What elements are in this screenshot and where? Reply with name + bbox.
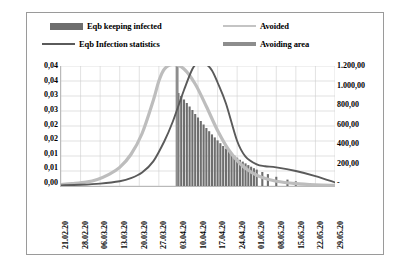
bar — [186, 103, 188, 186]
bar — [217, 140, 219, 186]
x-axis-tick-label: 29.05.20 — [337, 221, 345, 249]
x-axis-tick-label: 10.04.20 — [200, 221, 208, 249]
y-right-tick: 800,00 — [337, 101, 381, 109]
bar — [253, 168, 255, 186]
bar — [183, 100, 185, 186]
y-left-tick: 0,04 — [27, 77, 58, 85]
y-left-tick: 0,03 — [27, 106, 58, 114]
chart-container: Eqb keeping infected Eqb Infection stati… — [26, 12, 384, 255]
y-left-tick: 0,00 — [27, 179, 58, 187]
bar — [225, 149, 227, 186]
legend-item-avoided[interactable]: Avoided — [223, 21, 289, 31]
chart-svg — [61, 66, 335, 186]
x-axis-labels: 21.02.2028.02.2006.03.2013.03.2020.03.20… — [60, 191, 335, 253]
line-swatch-icon — [223, 25, 256, 27]
legend-label-avoiding-area: Avoiding area — [260, 39, 309, 49]
legend-label-eqb-infection-statistics: Eqb Infection statistics — [79, 39, 160, 49]
legend-item-avoiding-area[interactable]: Avoiding area — [223, 39, 309, 49]
legend-label-avoided: Avoided — [260, 21, 289, 31]
plot-region: 0,04 0,04 0,03 0,03 0,02 0,02 0,01 0,01 … — [27, 58, 383, 256]
y-right-tick: 600,00 — [337, 121, 381, 129]
bar — [189, 107, 191, 186]
bar — [230, 153, 232, 186]
legend-label-eqb-keeping-infected: Eqb keeping infected — [87, 21, 162, 31]
line-swatch-icon — [42, 43, 75, 45]
x-axis-tick-label: 22.05.20 — [317, 221, 325, 249]
bar — [191, 110, 193, 186]
bar — [211, 134, 213, 186]
bar — [250, 167, 252, 186]
plot-area — [60, 66, 335, 187]
y-left-tick: 0,02 — [27, 121, 58, 129]
y-left-tick: 0,02 — [27, 135, 58, 143]
legend-item-eqb-infection-statistics[interactable]: Eqb Infection statistics — [42, 39, 160, 49]
y-left-tick: 0,01 — [27, 164, 58, 172]
bar — [256, 170, 258, 186]
bar — [194, 114, 196, 186]
y-right-tick: 400,00 — [337, 140, 381, 148]
x-axis-tick-label: 28.02.20 — [82, 221, 90, 249]
bar-swatch-icon — [50, 23, 83, 30]
bar — [219, 143, 221, 186]
y-axis-left-labels: 0,04 0,04 0,03 0,03 0,02 0,02 0,01 0,01 … — [27, 62, 58, 187]
thick-line-swatch-icon — [223, 42, 256, 46]
y-right-tick: 1.200,00 — [337, 62, 381, 70]
y-left-tick: 0,03 — [27, 91, 58, 99]
x-axis-tick-label: 03.04.20 — [180, 221, 188, 249]
y-right-tick: - — [337, 179, 381, 187]
x-axis-tick-label: 24.04.20 — [239, 221, 247, 249]
x-axis-tick-label: 01.05.20 — [258, 221, 266, 249]
bar-series-eqb-keeping-infected — [177, 93, 335, 186]
x-axis-tick-label: 06.03.20 — [101, 221, 109, 249]
bar — [228, 151, 230, 186]
y-left-tick: 0,01 — [27, 150, 58, 158]
legend-item-eqb-keeping-infected[interactable]: Eqb keeping infected — [50, 21, 162, 31]
x-axis-tick-label: 27.03.20 — [160, 221, 168, 249]
y-axis-right-labels: 1.200,00 1.000,00 800,00 600,00 400,00 2… — [337, 62, 381, 187]
y-right-tick: 200,00 — [337, 160, 381, 168]
bar — [203, 125, 205, 186]
x-axis-tick-label: 17.04.20 — [219, 221, 227, 249]
bar — [200, 121, 202, 186]
bar — [205, 128, 207, 186]
bar — [197, 118, 199, 186]
y-left-tick: 0,04 — [27, 62, 58, 70]
bar — [222, 146, 224, 186]
x-axis-tick-label: 13.03.20 — [121, 221, 129, 249]
bar — [208, 131, 210, 186]
x-axis-tick-label: 08.05.20 — [278, 221, 286, 249]
bar — [180, 96, 182, 186]
x-axis-tick-label: 15.05.20 — [298, 221, 306, 249]
chart-legend: Eqb keeping infected Eqb Infection stati… — [27, 13, 383, 58]
x-axis-tick-label: 20.03.20 — [141, 221, 149, 249]
x-axis-tick-label: 21.02.20 — [62, 221, 70, 249]
avoiding-area-band — [176, 66, 179, 186]
bar — [214, 137, 216, 186]
y-right-tick: 1.000,00 — [337, 82, 381, 90]
